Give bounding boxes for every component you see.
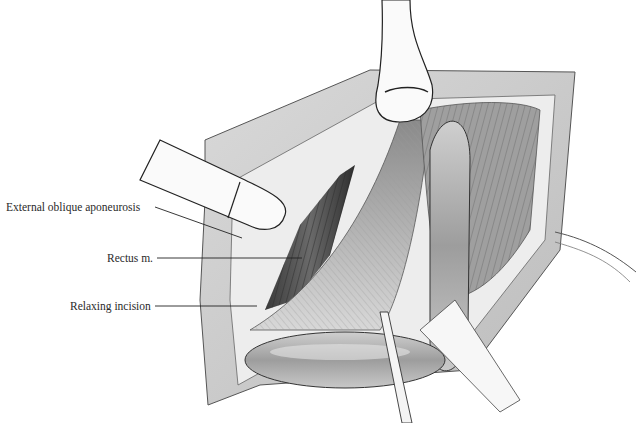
label-external-oblique-aponeurosis: External oblique aponeurosis bbox=[6, 201, 140, 213]
label-relaxing-incision: Relaxing incision bbox=[70, 300, 151, 312]
label-rectus-muscle: Rectus m. bbox=[107, 252, 153, 264]
top-retractor bbox=[376, 0, 433, 122]
right-retractor bbox=[555, 232, 636, 282]
bowel-loop bbox=[245, 332, 445, 388]
